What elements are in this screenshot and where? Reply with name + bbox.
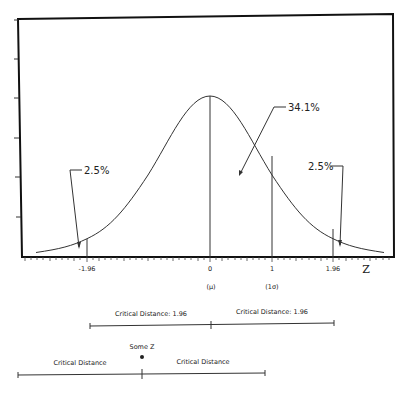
critical-distance-diagram-top: Critical Distance: 1.96 Critical Distanc… [90,308,334,329]
axis-label-z: Z [362,263,370,276]
bottom-left-critical-label: Critical Distance [53,359,106,367]
right-tail-annotation: 2.5% [308,161,333,172]
critical-distance-diagram-bottom: Some Z Critical Distance Critical Distan… [18,343,265,379]
tick-label-neg196: -1.96 [79,265,96,273]
sigma-label: (1σ) [265,283,278,291]
vertical-markers [87,96,333,257]
normal-distribution-figure: 2.5% 34.1% 2.5% -1.96 0 1 1.96 Z (μ) (1σ… [0,0,410,393]
tick-label-zero: 0 [208,265,212,273]
center-annotation: 34.1% [288,102,320,113]
annotation-leaders [70,107,343,247]
tick-label-pos196: 1.96 [326,265,340,273]
left-tail-annotation: 2.5% [84,165,109,176]
top-right-critical-label: Critical Distance: 1.96 [236,308,308,316]
tick-label-one: 1 [270,265,274,273]
plot-frame [18,14,394,257]
some-z-label: Some Z [130,343,155,351]
some-z-point [140,355,144,359]
mu-label: (μ) [206,283,215,291]
top-left-critical-label: Critical Distance: 1.96 [115,310,187,318]
bottom-right-critical-label: Critical Distance [176,358,229,366]
